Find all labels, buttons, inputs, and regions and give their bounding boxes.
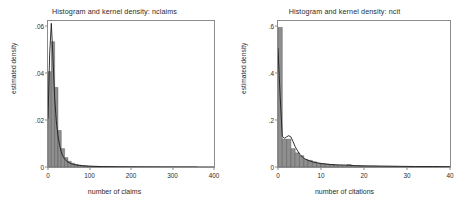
x-tick-mark bbox=[364, 167, 365, 170]
x-tick-mark bbox=[89, 167, 90, 170]
x-axis-label-nclaims: number of claims bbox=[0, 188, 229, 195]
x-tick-label: 0 bbox=[46, 172, 50, 179]
chart-title-nclaims: Histogram and kernel density: nclaims bbox=[0, 7, 229, 16]
kernel-density-curve-ncit bbox=[278, 21, 450, 167]
y-tick-label: .06 bbox=[35, 22, 44, 29]
x-tick-label: 40 bbox=[446, 172, 453, 179]
plot-inner-nclaims bbox=[48, 21, 214, 167]
kernel-density-curve-nclaims bbox=[48, 21, 214, 167]
y-tick-label: 0 bbox=[270, 164, 274, 171]
x-tick-label: 20 bbox=[360, 172, 367, 179]
x-tick-label: 300 bbox=[167, 172, 178, 179]
x-axis-label-ncit: number of citations bbox=[230, 188, 459, 195]
figure-container: Histogram and kernel density: nclaims es… bbox=[0, 0, 459, 206]
y-tick-label: .02 bbox=[35, 116, 44, 123]
x-tick-mark bbox=[450, 167, 451, 170]
x-tick-mark bbox=[48, 167, 49, 170]
x-tick-mark bbox=[172, 167, 173, 170]
y-tick-label: 0 bbox=[40, 164, 44, 171]
y-axis-label-ncit: estimated density bbox=[240, 43, 247, 94]
x-tick-label: 10 bbox=[317, 172, 324, 179]
plot-inner-ncit bbox=[278, 21, 450, 167]
y-tick-label: .6 bbox=[269, 22, 274, 29]
y-axis-label-nclaims: estimated density bbox=[10, 43, 17, 94]
x-tick-label: 30 bbox=[403, 172, 410, 179]
y-tick-label: .4 bbox=[269, 69, 274, 76]
chart-panel-ncit: Histogram and kernel density: ncit estim… bbox=[230, 0, 459, 206]
x-tick-mark bbox=[278, 167, 279, 170]
x-tick-label: 0 bbox=[276, 172, 280, 179]
x-tick-label: 200 bbox=[126, 172, 137, 179]
x-tick-label: 400 bbox=[209, 172, 220, 179]
x-tick-label: 100 bbox=[84, 172, 95, 179]
chart-title-ncit: Histogram and kernel density: ncit bbox=[230, 7, 459, 16]
plot-area-ncit: 0 .2 .4 .6 0 10 20 30 40 bbox=[277, 20, 451, 168]
x-tick-mark bbox=[131, 167, 132, 170]
y-tick-label: .04 bbox=[35, 69, 44, 76]
chart-panel-nclaims: Histogram and kernel density: nclaims es… bbox=[0, 0, 229, 206]
x-tick-mark bbox=[407, 167, 408, 170]
x-tick-mark bbox=[214, 167, 215, 170]
y-tick-label: .2 bbox=[269, 116, 274, 123]
x-tick-mark bbox=[321, 167, 322, 170]
plot-area-nclaims: 0 .02 .04 .06 0 100 200 300 400 bbox=[47, 20, 215, 168]
